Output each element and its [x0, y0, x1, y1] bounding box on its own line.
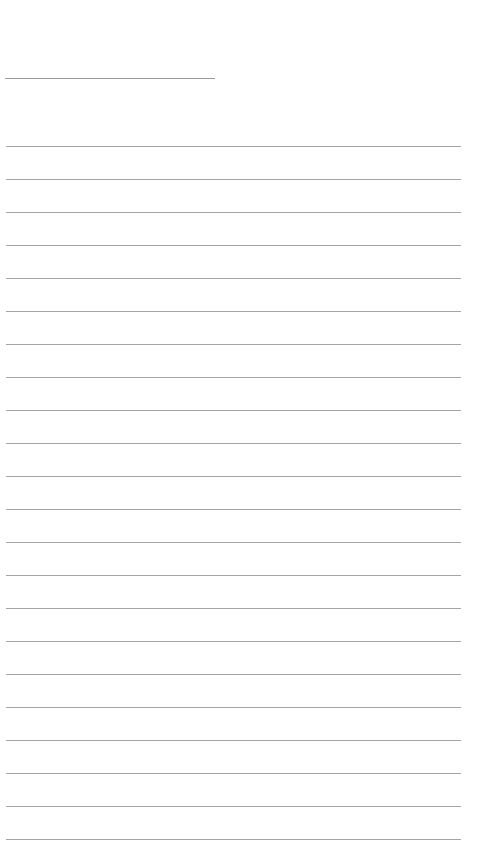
note-body-input[interactable] [6, 118, 461, 844]
